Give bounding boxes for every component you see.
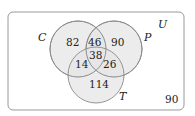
region-c-only: 82 [66,36,79,48]
region-c-p-t: 38 [89,49,102,61]
outside-count: 90 [165,93,178,105]
universe-label: U [158,18,168,31]
venn-diagram: U C P T 82 90 46 38 14 26 114 90 [0,0,195,116]
set-label-c: C [38,31,47,44]
region-t-only: 114 [89,78,109,90]
set-label-p: P [143,31,152,44]
region-c-and-p: 46 [88,36,102,48]
region-c-and-t: 14 [75,58,89,70]
region-p-and-t: 26 [103,58,117,70]
region-p-only: 90 [111,36,124,48]
